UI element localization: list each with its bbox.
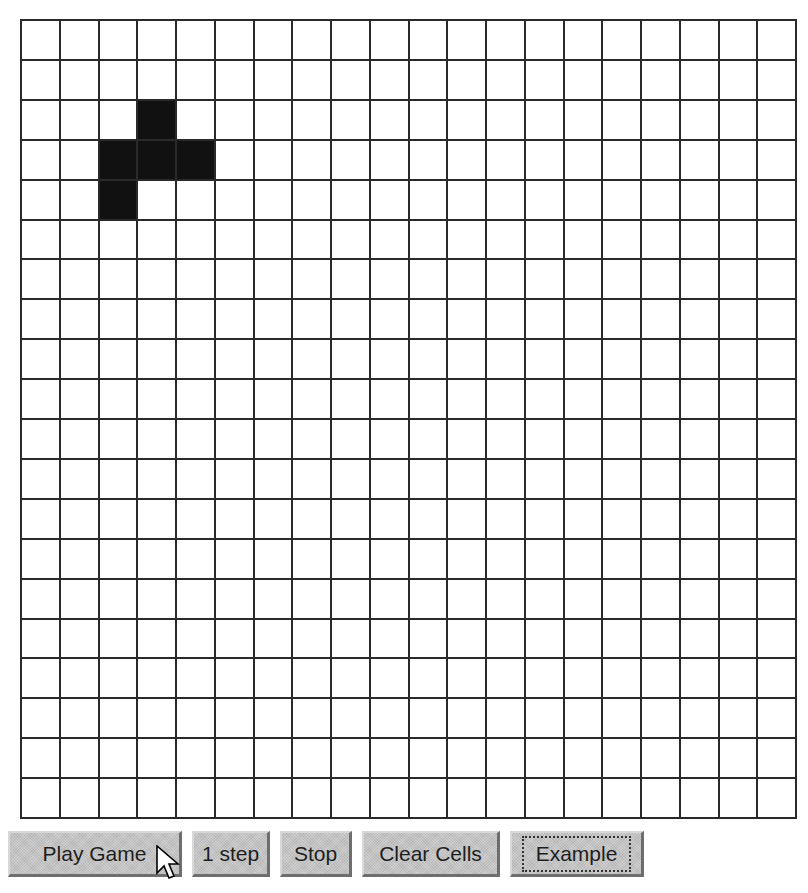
grid-cell[interactable] <box>22 779 61 819</box>
grid-cell[interactable] <box>565 779 604 819</box>
grid-cell[interactable] <box>758 141 797 181</box>
grid-cell[interactable] <box>100 260 139 300</box>
grid-cell[interactable] <box>758 260 797 300</box>
grid-cell[interactable] <box>681 380 720 420</box>
grid-cell[interactable] <box>255 739 294 779</box>
grid-cell[interactable] <box>255 61 294 101</box>
grid-cell[interactable] <box>293 260 332 300</box>
grid-cell[interactable] <box>720 540 759 580</box>
grid-cell[interactable] <box>720 739 759 779</box>
grid-cell[interactable] <box>293 540 332 580</box>
grid-cell[interactable] <box>61 779 100 819</box>
grid-cell[interactable] <box>487 101 526 141</box>
grid-cell[interactable] <box>177 340 216 380</box>
grid-cell[interactable] <box>565 699 604 739</box>
grid-cell[interactable] <box>410 380 449 420</box>
grid-cell[interactable] <box>526 141 565 181</box>
grid-cell[interactable] <box>216 181 255 221</box>
grid-cell[interactable] <box>138 739 177 779</box>
grid-cell[interactable] <box>332 580 371 620</box>
grid-cell[interactable] <box>565 659 604 699</box>
grid-cell[interactable] <box>216 141 255 181</box>
grid-cell[interactable] <box>526 460 565 500</box>
grid-cell[interactable] <box>371 739 410 779</box>
grid-cell[interactable] <box>293 300 332 340</box>
grid-cell-alive[interactable] <box>100 141 139 181</box>
grid-cell[interactable] <box>410 580 449 620</box>
grid-cell[interactable] <box>642 739 681 779</box>
grid-cell[interactable] <box>642 420 681 460</box>
grid-cell[interactable] <box>448 699 487 739</box>
grid-cell[interactable] <box>61 620 100 660</box>
grid-cell[interactable] <box>681 659 720 699</box>
grid-cell[interactable] <box>448 420 487 460</box>
grid-cell[interactable] <box>61 141 100 181</box>
grid-cell[interactable] <box>448 181 487 221</box>
grid-cell[interactable] <box>487 61 526 101</box>
grid-cell[interactable] <box>100 61 139 101</box>
grid-cell[interactable] <box>681 101 720 141</box>
grid-cell[interactable] <box>642 181 681 221</box>
grid-cell[interactable] <box>177 21 216 61</box>
grid-cell[interactable] <box>22 739 61 779</box>
grid-cell[interactable] <box>216 699 255 739</box>
grid-cell[interactable] <box>758 181 797 221</box>
grid-cell[interactable] <box>371 181 410 221</box>
grid-cell[interactable] <box>720 620 759 660</box>
grid-cell[interactable] <box>565 181 604 221</box>
grid-cell[interactable] <box>681 221 720 261</box>
grid-cell[interactable] <box>177 380 216 420</box>
grid-cell[interactable] <box>100 21 139 61</box>
grid-cell[interactable] <box>22 300 61 340</box>
grid-cell[interactable] <box>642 101 681 141</box>
grid-cell[interactable] <box>642 699 681 739</box>
grid-cell[interactable] <box>758 61 797 101</box>
grid-cell[interactable] <box>293 101 332 141</box>
grid-cell[interactable] <box>177 580 216 620</box>
grid-cell[interactable] <box>177 779 216 819</box>
grid-cell[interactable] <box>100 420 139 460</box>
grid-cell[interactable] <box>448 620 487 660</box>
grid-cell[interactable] <box>371 420 410 460</box>
grid-cell[interactable] <box>410 540 449 580</box>
grid-cell[interactable] <box>293 21 332 61</box>
grid-cell[interactable] <box>371 221 410 261</box>
grid-cell[interactable] <box>448 141 487 181</box>
grid-cell[interactable] <box>603 779 642 819</box>
grid-cell[interactable] <box>603 699 642 739</box>
grid-cell[interactable] <box>100 300 139 340</box>
grid-cell[interactable] <box>100 699 139 739</box>
grid-cell[interactable] <box>22 141 61 181</box>
grid-cell[interactable] <box>293 500 332 540</box>
grid-cell[interactable] <box>603 141 642 181</box>
grid-cell[interactable] <box>720 779 759 819</box>
grid-cell[interactable] <box>22 101 61 141</box>
grid-cell[interactable] <box>758 779 797 819</box>
grid-cell[interactable] <box>758 300 797 340</box>
grid-cell[interactable] <box>487 779 526 819</box>
grid-cell[interactable] <box>100 540 139 580</box>
grid-cell[interactable] <box>603 540 642 580</box>
grid-cell[interactable] <box>410 21 449 61</box>
grid-cell[interactable] <box>332 340 371 380</box>
grid-cell[interactable] <box>371 699 410 739</box>
grid-cell[interactable] <box>448 779 487 819</box>
grid-cell[interactable] <box>216 260 255 300</box>
grid-cell[interactable] <box>177 221 216 261</box>
grid-cell[interactable] <box>332 141 371 181</box>
grid-cell[interactable] <box>22 460 61 500</box>
grid-cell[interactable] <box>565 221 604 261</box>
grid-cell[interactable] <box>526 420 565 460</box>
grid-cell[interactable] <box>216 101 255 141</box>
grid-cell[interactable] <box>565 620 604 660</box>
grid-cell[interactable] <box>448 380 487 420</box>
grid-cell[interactable] <box>293 61 332 101</box>
grid-cell[interactable] <box>448 61 487 101</box>
grid-cell[interactable] <box>487 739 526 779</box>
grid-cell[interactable] <box>216 500 255 540</box>
grid-cell[interactable] <box>61 181 100 221</box>
grid-cell[interactable] <box>293 221 332 261</box>
grid-cell[interactable] <box>603 460 642 500</box>
grid-cell[interactable] <box>681 420 720 460</box>
grid-cell[interactable] <box>410 420 449 460</box>
